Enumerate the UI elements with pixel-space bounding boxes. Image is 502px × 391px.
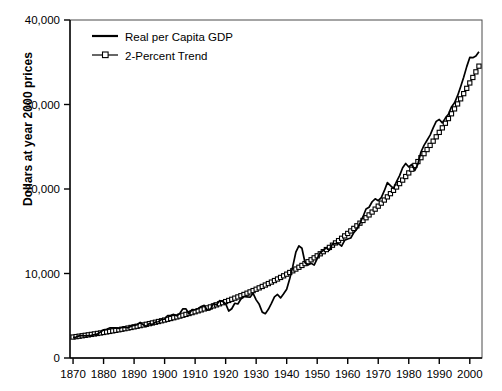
x-tick-label: 1900 <box>152 368 178 380</box>
legend-label: Real per Capita GDP <box>125 31 233 43</box>
x-tick-label: 1880 <box>91 368 117 380</box>
y-tick-label: 30,000 <box>25 99 60 111</box>
axis-frame <box>70 20 482 358</box>
x-tick-label: 1960 <box>335 368 361 380</box>
legend-item: 2-Percent Trend <box>92 50 207 62</box>
plot-area: 010,00020,00030,00040,000 18701880189019… <box>0 0 502 391</box>
x-tick-mark-group <box>73 358 470 364</box>
x-tick-label: 2000 <box>457 368 483 380</box>
y-tick-mark-group <box>64 20 70 358</box>
y-tick-label: 40,000 <box>25 14 60 26</box>
x-tick-label: 1950 <box>304 368 330 380</box>
chart-figure: Dollars at year 2000 prices 010,00020,00… <box>0 0 502 391</box>
x-tick-label: 1890 <box>121 368 147 380</box>
x-tick-label: 1940 <box>274 368 300 380</box>
x-tick-label: 1870 <box>60 368 86 380</box>
series-2-percent-trend <box>71 64 481 339</box>
x-tick-label-group: 1870188018901900191019201930194019501960… <box>60 368 482 380</box>
series-real-per-capita-gdp <box>73 52 479 338</box>
y-tick-label: 20,000 <box>25 183 60 195</box>
x-tick-label: 1910 <box>182 368 208 380</box>
x-tick-label: 1920 <box>213 368 239 380</box>
chart-legend: Real per Capita GDP2-Percent Trend <box>92 31 233 62</box>
x-tick-label: 1930 <box>243 368 269 380</box>
legend-item: Real per Capita GDP <box>92 31 233 43</box>
y-tick-label: 10,000 <box>25 268 60 280</box>
x-tick-label: 1990 <box>426 368 452 380</box>
y-tick-label: 0 <box>54 352 60 364</box>
x-tick-label: 1980 <box>396 368 422 380</box>
y-tick-label-group: 010,00020,00030,00040,000 <box>25 14 60 364</box>
legend-label: 2-Percent Trend <box>125 50 207 62</box>
x-tick-label: 1970 <box>365 368 391 380</box>
